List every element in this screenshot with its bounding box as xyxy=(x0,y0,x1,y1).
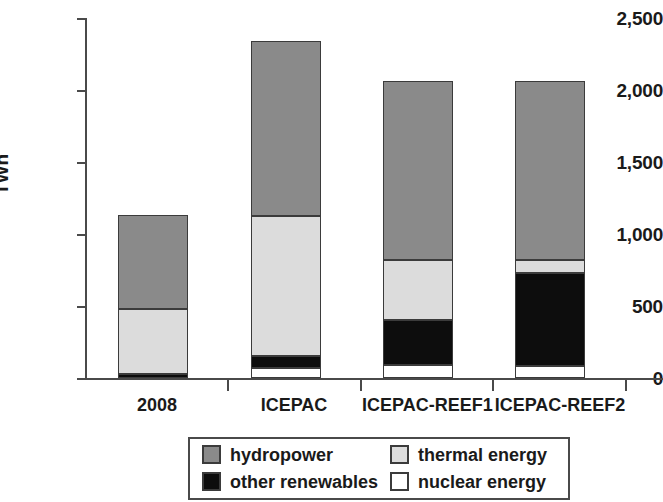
x-axis-tick-label-icepac-reef2: ICEPAC-REEF2 xyxy=(494,396,626,416)
y-axis-tick-label: 2,000 xyxy=(589,81,663,100)
legend-label: nuclear energy xyxy=(418,473,546,491)
bar-segment-nuclear-energy xyxy=(515,366,585,378)
x-axis-tick xyxy=(492,380,494,391)
y-axis-tick-label: 1,000 xyxy=(589,225,663,244)
y-axis-tick xyxy=(77,234,86,236)
legend-label: hydropower xyxy=(230,446,333,464)
stacked-bar-chart: TWh 2,500 2,000 1,500 1,000 500 0 2008 I… xyxy=(0,0,663,502)
y-axis-tick xyxy=(77,306,86,308)
legend: hydropower thermal energy other renewabl… xyxy=(188,437,570,500)
bar-icepac xyxy=(251,41,321,378)
y-axis-tick-label: 2,500 xyxy=(589,9,663,28)
x-axis-tick xyxy=(227,380,229,391)
bar-segment-thermal-energy xyxy=(383,260,453,320)
y-axis-tick-label: 1,500 xyxy=(589,153,663,172)
legend-swatch-thermal-icon xyxy=(390,445,409,464)
x-axis-tick xyxy=(360,380,362,391)
bar-segment-hydropower xyxy=(118,215,188,309)
bar-segment-nuclear-energy xyxy=(251,368,321,378)
bar-segment-other-renewables xyxy=(251,356,321,368)
legend-label: thermal energy xyxy=(418,446,547,464)
x-axis-tick-label-2008: 2008 xyxy=(88,396,226,416)
bar-segment-other-renewables xyxy=(118,374,188,378)
y-axis-tick xyxy=(77,90,86,92)
bar-segment-hydropower xyxy=(515,81,585,260)
legend-swatch-hydropower-icon xyxy=(202,445,221,464)
bar-segment-thermal-energy xyxy=(515,260,585,273)
bar-segment-hydropower xyxy=(251,41,321,216)
bar-segment-other-renewables xyxy=(515,273,585,367)
legend-item-other-renewables: other renewables xyxy=(202,472,378,491)
bar-segment-nuclear-energy xyxy=(383,365,453,378)
bar-segment-thermal-energy xyxy=(251,216,321,356)
x-axis-tick-label-icepac-reef1: ICEPAC-REEF1 xyxy=(362,396,491,416)
y-axis-title: TWh xyxy=(0,154,13,195)
legend-label: other renewables xyxy=(230,473,378,491)
x-axis-tick-label-icepac: ICEPAC xyxy=(229,396,359,416)
bar-segment-other-renewables xyxy=(383,320,453,365)
bar-icepac-reef2 xyxy=(515,81,585,378)
legend-item-hydropower: hydropower xyxy=(202,445,333,464)
x-axis-line xyxy=(85,378,663,380)
legend-item-thermal-energy: thermal energy xyxy=(390,445,547,464)
bar-segment-hydropower xyxy=(383,81,453,260)
y-axis-tick-label: 500 xyxy=(589,297,663,316)
legend-swatch-other-renewables-icon xyxy=(202,472,221,491)
y-axis-tick xyxy=(77,18,86,20)
y-axis-line xyxy=(85,18,87,380)
legend-swatch-nuclear-icon xyxy=(390,472,409,491)
x-axis-tick xyxy=(625,380,627,391)
bar-icepac-reef1 xyxy=(383,81,453,378)
legend-item-nuclear-energy: nuclear energy xyxy=(390,472,546,491)
bar-2008 xyxy=(118,215,188,378)
bar-segment-thermal-energy xyxy=(118,309,188,374)
y-axis-tick xyxy=(77,162,86,164)
